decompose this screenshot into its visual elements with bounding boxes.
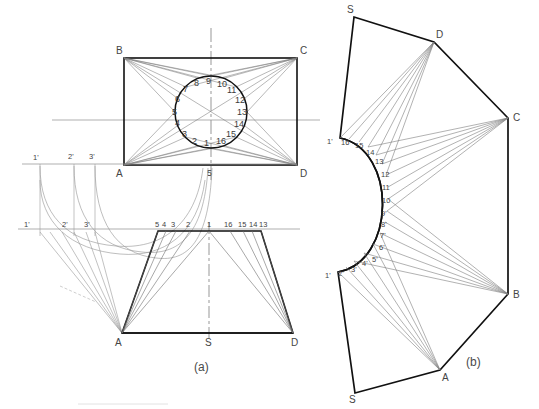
front-view-top-label-2: 2 <box>186 220 190 229</box>
development-fan-from-D <box>340 42 434 175</box>
front-view-top-label-3: 3 <box>171 220 175 229</box>
development-lower-label-6prime: 6' <box>379 243 385 252</box>
aux-lower-label-1prime: 1' <box>24 220 30 229</box>
circle-point-label-13: 13 <box>237 107 247 117</box>
development-upper-label-1prime: 1' <box>327 137 333 146</box>
technical-drawing-svg: 1 2 3 4 5 6 7 8 9 10 11 12 13 14 15 16 B… <box>0 0 539 409</box>
aux-lower-label-3prime: 3' <box>84 220 90 229</box>
development-lower-label-4prime: 4' <box>362 259 368 268</box>
circle-point-label-1: 1 <box>204 138 209 148</box>
top-view-corner-label-B: B <box>116 45 123 56</box>
circle-point-label-15: 15 <box>226 129 236 139</box>
development-upper-label-16: 16 <box>341 138 349 147</box>
development-lower-label-7prime: 7' <box>380 231 386 240</box>
development-lower-label-8prime: 8' <box>381 220 387 229</box>
front-view-top-label-14: 14 <box>249 220 257 229</box>
development-corner-label-S-bottom: S <box>349 394 356 405</box>
front-view-top-label-4: 4 <box>162 220 166 229</box>
development-corner-label-C: C <box>513 112 520 123</box>
front-view-corner-label-S: S <box>205 337 212 348</box>
front-view-corner-label-D: D <box>291 337 298 348</box>
front-view-trapezoid <box>122 231 293 333</box>
circle-point-label-16: 16 <box>216 136 226 146</box>
circle-point-label-3: 3 <box>182 129 187 139</box>
top-view-corner-label-A: A <box>116 168 123 179</box>
circle-point-label-14: 14 <box>234 119 244 129</box>
development-group: 1' 16 15 14 13 12 11 10 9' 1' 2' 3' 4' 5… <box>325 4 520 405</box>
development-upper-label-13: 13 <box>375 157 383 166</box>
figure-caption-a: (a) <box>194 360 209 374</box>
development-fan-from-A <box>338 233 440 370</box>
circle-point-label-11: 11 <box>227 85 236 95</box>
front-view-top-label-16: 16 <box>224 220 232 229</box>
auxiliary-construction-group: 1' 2' 3' 1' 2' 3' <box>18 152 300 333</box>
development-lower-label-1prime: 1' <box>325 271 331 280</box>
front-view-group: 5 4 3 2 1 16 15 14 13 A S D <box>115 220 298 348</box>
circle-point-label-7: 7 <box>183 84 188 94</box>
development-corner-label-D: D <box>436 29 443 40</box>
aux-upper-label-2prime: 2' <box>68 152 74 161</box>
development-upper-label-11: 11 <box>382 183 390 192</box>
front-view-top-label-1: 1 <box>207 220 211 229</box>
development-fan-from-B <box>354 199 508 294</box>
development-lower-label-3prime: 3' <box>351 265 357 274</box>
circle-point-label-10: 10 <box>217 79 227 89</box>
development-upper-label-14: 14 <box>366 148 374 157</box>
circle-point-label-9: 9 <box>206 76 211 86</box>
drawing-sheet: 1 2 3 4 5 6 7 8 9 10 11 12 13 14 15 16 B… <box>0 0 539 409</box>
development-outline <box>338 17 508 393</box>
figure-caption-b: (b) <box>466 355 481 369</box>
front-view-top-label-13: 13 <box>259 220 267 229</box>
development-corner-label-A: A <box>442 372 449 383</box>
development-upper-label-12: 12 <box>381 170 389 179</box>
aux-fan-lines <box>40 232 122 333</box>
aux-true-length-arcs <box>40 166 212 258</box>
development-upper-label-10: 10 <box>382 196 390 205</box>
development-lower-label-5prime: 5' <box>372 255 378 264</box>
development-upper-label-9prime: 9' <box>381 209 387 218</box>
circle-point-label-5: 5 <box>172 107 177 117</box>
development-corner-label-S-top: S <box>347 4 354 15</box>
circle-point-label-12: 12 <box>235 95 245 105</box>
aux-upper-label-3prime: 3' <box>89 152 95 161</box>
development-lower-label-2prime: 2' <box>338 269 344 278</box>
aux-upper-label-1prime: 1' <box>33 153 39 162</box>
top-view-corner-label-C: C <box>300 45 307 56</box>
circle-point-label-2: 2 <box>192 136 197 146</box>
development-corner-label-B: B <box>513 289 520 300</box>
front-view-top-label-5: 5 <box>155 220 159 229</box>
circle-point-label-8: 8 <box>194 78 199 88</box>
development-upper-label-15: 15 <box>355 141 363 150</box>
circle-point-label-4: 4 <box>175 118 180 128</box>
front-view-top-label-15: 15 <box>238 220 246 229</box>
aux-lower-label-2prime: 2' <box>62 220 68 229</box>
front-view-fan-right <box>209 231 293 333</box>
top-view-corner-label-D: D <box>300 168 307 179</box>
circle-point-label-6: 6 <box>175 94 180 104</box>
front-view-corner-label-A: A <box>115 337 122 348</box>
